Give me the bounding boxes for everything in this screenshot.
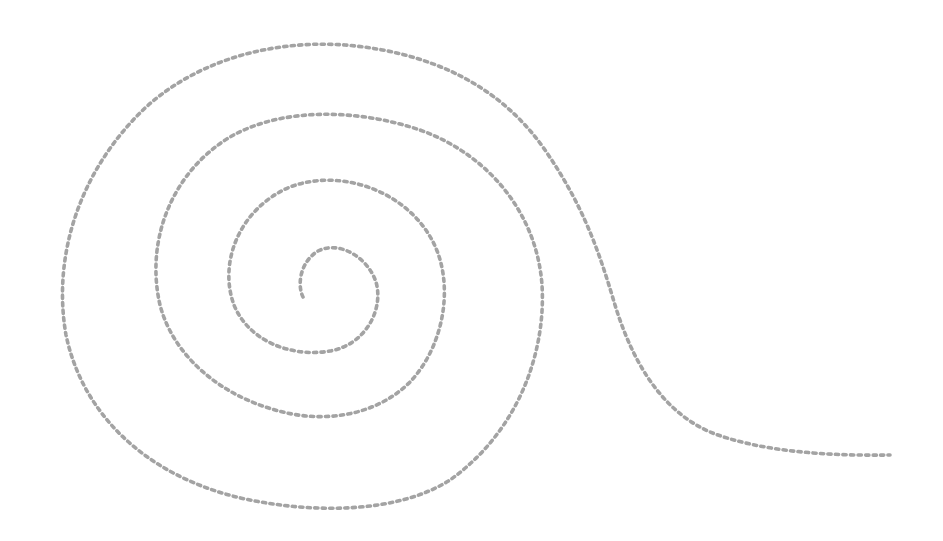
spiral-canvas — [0, 0, 943, 541]
dotted-spiral-curve — [62, 44, 890, 508]
